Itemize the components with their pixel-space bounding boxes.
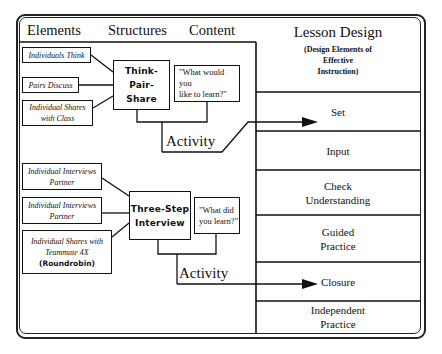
structure-label: Share [114, 92, 169, 106]
lesson-design-title: Lesson Design [258, 24, 418, 41]
element-label: Individual Shares with [31, 236, 103, 247]
element-box-pairs-discuss: Pairs Discuss [22, 77, 79, 93]
lesson-row-input: Input [258, 131, 418, 170]
content-label: like to learn?" [179, 89, 239, 100]
header-elements: Elements [27, 22, 81, 39]
content-box-what-would-you-like: "What would youlike to learn?" [174, 65, 240, 102]
element-label: Individuals Think [28, 50, 84, 61]
content-label: "What would you [179, 67, 239, 89]
lesson-row-guided-practice: GuidedPractice [258, 215, 418, 262]
row-label: Closure [321, 275, 355, 289]
header-content: Content [189, 22, 235, 39]
lesson-row-check-understanding: CheckUnderstanding [258, 170, 418, 215]
element-label: Individual Interviews [28, 166, 96, 177]
content-label: "What did [199, 205, 238, 216]
row-label: Set [331, 105, 345, 119]
element-box-interviews-partner-2: Individual InterviewsPartner [22, 197, 102, 224]
activity-label-1: Activity [166, 133, 215, 150]
subtitle-line: (Design Elements of [258, 44, 418, 55]
structure-label: Think-Pair- [114, 64, 169, 92]
element-label: Teammate 4X [31, 247, 103, 258]
subtitle-line: Effective [258, 55, 418, 66]
row-label: Practice [320, 239, 355, 253]
element-box-interviews-partner-1: Individual InterviewsPartner [22, 163, 102, 190]
subtitle-line: Instruction) [258, 66, 418, 77]
element-box-individual-shares: Individual Shareswith Class [22, 100, 93, 126]
structure-box-think-pair-share: Think-Pair-Share [113, 60, 170, 110]
element-label: Individual Interviews [28, 200, 96, 211]
header-structures: Structures [108, 22, 167, 39]
content-label: you learn?" [199, 216, 238, 227]
content-box-what-did-you-learn: "What didyou learn?" [194, 197, 240, 234]
element-label: (Roundrobin) [31, 258, 103, 269]
element-box-individuals-think: Individuals Think [22, 47, 91, 63]
row-label: Practice [311, 317, 365, 331]
row-label: Input [326, 144, 349, 158]
row-label: Independent [311, 303, 365, 317]
row-label: Check [306, 179, 371, 193]
structure-label: Three-Step [131, 202, 189, 216]
lesson-row-closure: Closure [258, 262, 418, 301]
element-label: Individual Shares [29, 102, 85, 113]
element-label: Pairs Discuss [28, 80, 72, 91]
row-label: Guided [320, 225, 355, 239]
structure-box-three-step-interview: Three-StepInterview [129, 191, 191, 240]
structure-label: Interview [131, 216, 189, 230]
lesson-row-independent-practice: IndependentPractice [258, 301, 418, 333]
element-label: Partner [28, 177, 96, 188]
row-label: Understanding [306, 193, 371, 207]
element-label: Partner [28, 211, 96, 222]
element-box-individual-shares-teammate: Individual Shares withTeammate 4X(Roundr… [22, 230, 112, 274]
lesson-design-subtitle: (Design Elements of Effective Instructio… [258, 44, 418, 77]
element-label: with Class [29, 113, 85, 124]
activity-label-2: Activity [179, 265, 228, 282]
lesson-row-set: Set [258, 92, 418, 131]
